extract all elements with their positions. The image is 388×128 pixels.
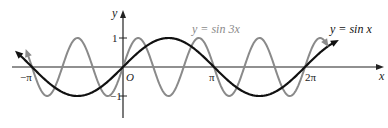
sine-graph-chart: y x O 1 −1 −π π 2π y = sin 3x y = sin x (0, 0, 388, 128)
x-axis-label: x (378, 69, 385, 83)
origin-label: O (126, 71, 134, 83)
x-axis (12, 64, 384, 70)
y-tick-neg1-label: −1 (110, 90, 122, 102)
x-tick-pi-label: π (209, 71, 215, 83)
sin-3x-legend-label: y = sin 3x (191, 22, 240, 36)
sin-x-legend-label: y = sin x (329, 22, 372, 36)
y-axis-arrow-icon (120, 10, 126, 18)
y-axis-label: y (111, 6, 118, 20)
x-tick-2pi-label: 2π (305, 71, 317, 83)
y-tick-1-label: 1 (112, 32, 118, 44)
x-tick-neg-pi-label: −π (20, 71, 32, 83)
sin-3x-left-arrow-icon (25, 49, 32, 58)
